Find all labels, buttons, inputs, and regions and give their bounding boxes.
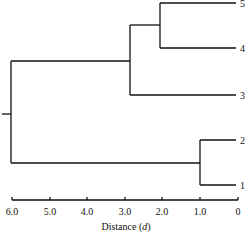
leaf-label-1: 1 <box>240 180 245 191</box>
dendrogram-branches <box>2 3 236 185</box>
dendrogram: 5 4 3 2 1 6.0 5.0 4.0 3.0 2.0 1.0 0 Dist… <box>0 0 248 235</box>
tick-4: 4.0 <box>81 206 94 217</box>
leaf-label-2: 2 <box>240 135 245 146</box>
tick-5: 5.0 <box>44 206 57 217</box>
tick-1: 1.0 <box>194 206 207 217</box>
tick-6: 6.0 <box>6 206 19 217</box>
leaf-labels: 5 4 3 2 1 <box>240 0 245 191</box>
distance-axis: 6.0 5.0 4.0 3.0 2.0 1.0 0 Distance (d) <box>6 197 241 233</box>
leaf-label-4: 4 <box>240 43 245 54</box>
leaf-label-5: 5 <box>240 0 245 9</box>
tick-3: 3.0 <box>119 206 132 217</box>
tick-0: 0 <box>236 206 241 217</box>
axis-title: Distance (d) <box>101 221 150 233</box>
tick-2: 2.0 <box>156 206 169 217</box>
leaf-label-3: 3 <box>240 90 245 101</box>
